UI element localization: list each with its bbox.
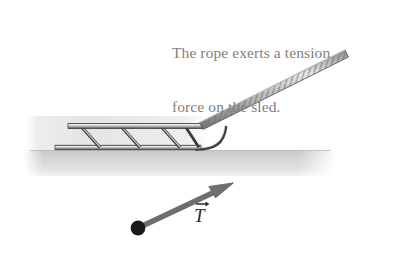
ground-surface: [24, 150, 336, 176]
vector-symbol: T: [193, 206, 205, 225]
tension-vector-label: T: [193, 206, 205, 225]
vector-arrow-icon: [195, 199, 210, 207]
sled-top-rail: [68, 123, 202, 128]
figure-canvas: [0, 0, 411, 258]
tension-vector: [131, 183, 233, 235]
rope: [190, 40, 360, 140]
vector-origin-dot: [131, 221, 146, 236]
physics-figure: The rope exerts a tension force on the s…: [0, 0, 411, 258]
